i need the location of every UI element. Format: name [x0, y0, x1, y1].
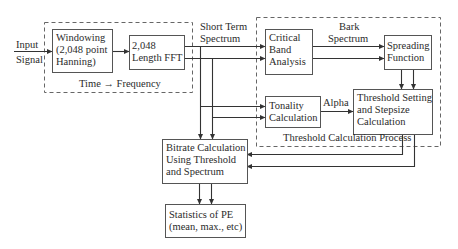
- bitrate-calculation-block: Bitrate Calculation Using Threshold and …: [162, 139, 248, 184]
- signal-label: Signal: [16, 54, 43, 66]
- input-label: Input: [16, 39, 38, 51]
- statistics-block: Statistics of PE (mean, max., etc): [165, 204, 246, 238]
- fft-block: 2,048 Length FFT: [129, 35, 185, 70]
- short-term-label: Short Term: [200, 21, 247, 33]
- critical-band-line-2: Band: [269, 44, 309, 56]
- bitrate-line-1: Bitrate Calculation: [166, 142, 244, 154]
- tonality-block: Tonality Calculation: [265, 96, 321, 128]
- fft-line-1: 2,048: [132, 40, 182, 52]
- bitrate-line-3: and Spectrum: [166, 166, 244, 178]
- tonality-line-1: Tonality: [269, 100, 317, 112]
- threshold-line-1: Threshold Setting: [357, 92, 429, 104]
- alpha-label: Alpha: [323, 97, 349, 109]
- spectrum-label: Spectrum: [200, 33, 240, 45]
- fft-line-2: Length FFT: [132, 52, 182, 64]
- bark-label: Bark: [339, 21, 359, 33]
- critical-band-block: Critical Band Analysis: [265, 29, 313, 75]
- windowing-line-1: Windowing: [56, 32, 109, 44]
- threshold-line-3: Calculation: [357, 116, 429, 128]
- bark-spectrum-label: Spectrum: [328, 33, 368, 45]
- threshold-group-label: Threshold Calculation Process: [283, 132, 411, 144]
- spreading-line-1: Spreading: [387, 40, 429, 52]
- threshold-line-2: and Stepsize: [357, 104, 429, 116]
- critical-band-line-3: Analysis: [269, 56, 309, 68]
- spreading-function-block: Spreading Function: [384, 35, 432, 70]
- windowing-line-3: Hanning): [56, 56, 109, 68]
- time-frequency-label: Time → Frequency: [79, 78, 161, 90]
- bitrate-line-2: Using Threshold: [166, 154, 244, 166]
- windowing-line-2: (2,048 point: [56, 44, 109, 56]
- tonality-line-2: Calculation: [269, 112, 317, 124]
- statistics-line-1: Statistics of PE: [169, 209, 242, 221]
- statistics-line-2: (mean, max., etc): [169, 221, 242, 233]
- critical-band-line-1: Critical: [269, 32, 309, 44]
- windowing-block: Windowing (2,048 point Hanning): [52, 29, 113, 73]
- spreading-line-2: Function: [387, 52, 429, 64]
- threshold-setting-block: Threshold Setting and Stepsize Calculati…: [353, 89, 433, 135]
